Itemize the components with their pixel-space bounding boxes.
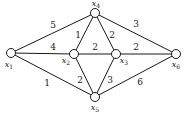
edge-weight-x2-x4: 1 [75,30,81,40]
node-x4 [91,9,100,18]
edge-weight-x1-x4: 5 [50,20,56,30]
edge-weight-x2-x3: 2 [92,42,98,52]
edge-weight-x4-x6: 3 [133,19,139,29]
edge-weight-x1-x2: 4 [50,42,56,52]
edge-x1-x2 [11,53,74,54]
node-label-x4: x4 [92,0,101,9]
edge-weight-x3-x5: 3 [107,75,113,85]
node-x6 [172,50,181,59]
node-label-x5: x5 [91,103,100,113]
edge-weight-x5-x6: 6 [137,77,143,87]
node-label-x2: x2 [62,56,71,66]
node-label-x6: x6 [172,60,181,70]
edge-weight-x1-x5: 1 [44,78,50,88]
edge-weight-x3-x4: 2 [109,30,115,40]
edges-layer [11,13,176,97]
node-label-x3: x3 [120,56,129,66]
node-x2 [70,50,79,59]
node-x1 [7,49,16,58]
edge-weight-x3-x6: 2 [133,42,139,52]
edge-weights-layer: 54112223326 [44,19,143,88]
nodes-layer [7,9,181,102]
edge-weight-x2-x5: 2 [77,75,83,85]
node-x5 [91,93,100,102]
weighted-graph: 54112223326 x1x2x3x4x5x6 [0,0,188,117]
node-label-x1: x1 [5,60,13,70]
